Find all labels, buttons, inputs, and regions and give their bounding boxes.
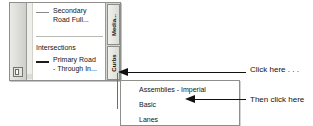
palette-divider <box>36 36 103 37</box>
palette-tab-label: Media... <box>111 13 117 35</box>
thin-line-swatch <box>36 12 49 13</box>
callout-label-click-here: Click here . . . <box>250 65 299 74</box>
left-arrow-icon <box>118 68 246 77</box>
scrollbar-gutter[interactable] <box>27 3 33 80</box>
tool-item[interactable]: Secondary Road Full... <box>36 7 103 24</box>
thick-line-swatch <box>36 61 49 63</box>
menu-item-lanes[interactable]: Lanes <box>121 112 239 126</box>
menu-connector-line <box>117 73 118 109</box>
left-arrow-icon <box>185 95 246 104</box>
tool-item-label: Primary Road - Through In... <box>53 56 97 73</box>
tool-item-label: Secondary Road Full... <box>53 7 89 24</box>
tool-item[interactable]: Primary Road - Through In... <box>36 56 103 73</box>
callout-label-then-click-here: Then click here <box>250 95 304 104</box>
palette-group-header: Intersections <box>36 44 76 51</box>
palette-tab-label: Curbs <box>111 54 117 71</box>
properties-icon[interactable] <box>13 67 23 77</box>
tool-palettes-window[interactable]: Tool Palettes - Civil 3... Secondary Roa… <box>9 2 121 81</box>
palette-titlebar[interactable]: Tool Palettes - Civil 3... <box>10 3 27 80</box>
palette-tab-media[interactable]: Media... <box>107 4 120 45</box>
palette-content-pane: Secondary Road Full... Intersections Pri… <box>27 3 105 80</box>
